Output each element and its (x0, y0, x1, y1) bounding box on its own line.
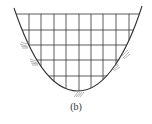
figure-caption: (b) (0, 101, 152, 112)
grid-lines (0, 14, 152, 100)
support-hatches (20, 42, 130, 97)
support-hatch-icon (74, 92, 84, 97)
support-hatch-icon (20, 42, 28, 48)
parabola-curve (14, 6, 142, 91)
support-hatch-icon (112, 64, 120, 71)
